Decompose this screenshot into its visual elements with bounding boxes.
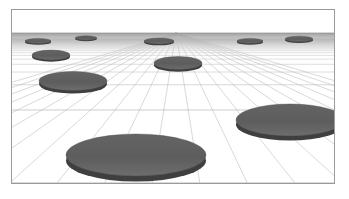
disc-top	[237, 38, 263, 43]
disc-near-center	[66, 134, 206, 182]
disc-top	[144, 38, 174, 44]
disc-top	[285, 36, 313, 42]
disc-mid-center	[154, 57, 202, 72]
disc-far-left-inner	[75, 36, 97, 41]
scene-frame	[11, 9, 335, 184]
disc-far-right-inner	[237, 38, 263, 44]
disc-near-right	[236, 104, 334, 141]
disc-mid-left-upper	[32, 50, 70, 62]
disc-far-center	[144, 38, 174, 45]
disc-top	[32, 50, 70, 60]
disc-far-right	[285, 36, 313, 43]
disc-top	[25, 38, 51, 43]
disc-far-left	[25, 38, 51, 44]
disc-mid-left-lower	[39, 72, 107, 94]
disc-top	[75, 36, 97, 40]
disc-top	[154, 57, 202, 70]
disc-top	[66, 134, 206, 176]
perspective-grid-floor	[12, 10, 334, 183]
disc-top	[39, 72, 107, 91]
scene-root	[0, 0, 349, 199]
